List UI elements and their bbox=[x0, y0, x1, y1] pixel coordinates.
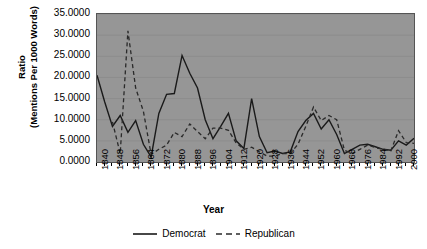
x-tick-label: 1992 bbox=[394, 149, 404, 170]
x-tick-label: 1960 bbox=[332, 149, 342, 170]
x-tick-label: 1856 bbox=[131, 149, 141, 170]
legend-label-democrat: Democrat bbox=[162, 228, 205, 239]
legend-item-democrat: Democrat bbox=[132, 228, 205, 239]
chart-legend: Democrat Republican bbox=[0, 228, 427, 239]
legend-label-republican: Republican bbox=[245, 228, 295, 239]
legend-item-republican: Republican bbox=[215, 228, 295, 239]
x-tick-label: 1936 bbox=[286, 149, 296, 170]
x-axis-title: Year bbox=[0, 204, 427, 215]
x-tick-label: 1864 bbox=[146, 149, 156, 170]
x-tick-label: 1984 bbox=[378, 149, 388, 170]
x-tick-label: 1896 bbox=[208, 149, 218, 170]
x-tick-label: 1880 bbox=[177, 149, 187, 170]
x-tick-label: 1888 bbox=[193, 149, 203, 170]
legend-swatch-solid-icon bbox=[132, 230, 158, 238]
legend-swatch-dashed-icon bbox=[215, 230, 241, 238]
chart-container: Ratio (Mentions Per 1000 Words) 35.00003… bbox=[0, 0, 427, 249]
x-tick-label: 1928 bbox=[270, 149, 280, 170]
x-tick-label: 2000 bbox=[409, 149, 419, 170]
x-tick-label: 1944 bbox=[301, 149, 311, 170]
x-tick-label: 1904 bbox=[224, 149, 234, 170]
x-tick-label: 1920 bbox=[255, 149, 265, 170]
x-tick-label: 1872 bbox=[162, 149, 172, 170]
x-tick-label: 1848 bbox=[115, 149, 125, 170]
x-tick-label: 1968 bbox=[347, 149, 357, 170]
x-tick-label: 1976 bbox=[363, 149, 373, 170]
x-tick-label: 1912 bbox=[239, 149, 249, 170]
x-tick-label: 1840 bbox=[100, 149, 110, 170]
x-tick-label: 1952 bbox=[316, 149, 326, 170]
